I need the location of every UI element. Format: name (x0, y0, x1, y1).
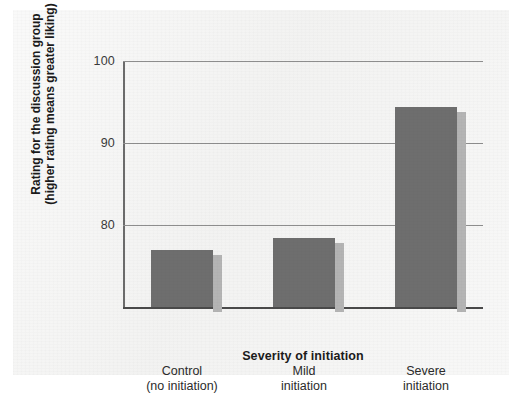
bar-control[interactable] (151, 250, 213, 307)
y-tick-label-90: 90 (101, 136, 123, 150)
y-tick-label-80: 80 (101, 218, 123, 232)
y-axis-title-line1: Rating for the discussion group (29, 13, 43, 194)
x-tick-label-mild-line2: initiation (281, 379, 327, 393)
bar-shadow-mild (335, 243, 344, 312)
plot-area: 100 90 80 Control (123, 61, 483, 307)
chart-canvas: 100 90 80 Control (13, 10, 509, 375)
x-tick-label-severe: Severe initiation (326, 364, 522, 394)
bar-mild[interactable] (273, 238, 335, 307)
x-axis-title: Severity of initiation (123, 349, 483, 363)
y-axis-title-line2: (higher rating means greater liking) (43, 0, 57, 304)
y-axis-title: Rating for the discussion group (higher … (29, 0, 57, 304)
bar-shadow-control (213, 255, 222, 312)
bar-severe[interactable] (395, 107, 457, 307)
y-tick-label-100: 100 (94, 54, 123, 68)
x-tick-label-mild-line1: Mild (293, 364, 316, 378)
x-tick-label-severe-line2: initiation (403, 379, 449, 393)
x-tick-label-severe-line1: Severe (406, 364, 446, 378)
x-axis-line (123, 307, 483, 309)
x-tick-label-control-line1: Control (162, 364, 202, 378)
gridline-100: 100 (123, 61, 483, 62)
bar-shadow-severe (457, 112, 466, 312)
